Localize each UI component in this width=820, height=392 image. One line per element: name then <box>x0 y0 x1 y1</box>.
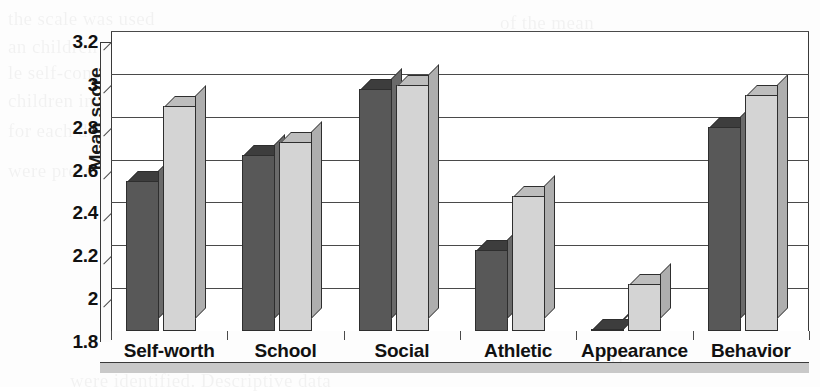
x-axis-tick-labels: Self-worthSchoolSocialAthleticAppearance… <box>100 340 820 370</box>
bar-side-face <box>544 175 555 319</box>
bar-series-1-behavior <box>708 127 741 331</box>
bar-series-1-athletic <box>475 250 508 331</box>
bar-group <box>576 31 692 331</box>
x-axis-tick-mark <box>693 331 694 340</box>
x-axis-tick-mark <box>111 331 112 340</box>
bar-group <box>227 31 343 331</box>
bar-series-1-social <box>359 89 392 331</box>
bar-group <box>460 31 576 331</box>
bar-series-2-athletic <box>512 196 545 331</box>
bar-series-2-behavior <box>745 95 778 331</box>
bar-series-2-appearance <box>628 284 661 331</box>
x-axis-tick-mark <box>809 331 810 340</box>
y-axis-tick-label: 2.2 <box>52 245 98 267</box>
bar-group <box>111 31 227 331</box>
y-axis-tick-label: 2 <box>52 288 98 310</box>
plot-area <box>111 31 809 331</box>
y-axis-tick-label: 2.8 <box>52 117 98 139</box>
x-axis-tick-label-behavior: Behavior <box>671 340 820 362</box>
x-axis-tick-mark <box>460 331 461 340</box>
bar-side-face <box>660 263 671 319</box>
bar-series-2-school <box>279 142 312 331</box>
y-axis-tick-label: 2.4 <box>52 202 98 224</box>
bar-series-2-social <box>396 85 429 331</box>
y-axis-tick-labels: 1.822.22.42.62.833.2 <box>36 0 98 387</box>
bar-side-face <box>777 74 788 319</box>
bar-group <box>693 31 809 331</box>
bar-series-1-self-worth <box>126 181 159 331</box>
x-axis-tick-mark <box>227 331 228 340</box>
bar-series-1-school <box>242 155 275 331</box>
bar-side-face <box>428 64 439 319</box>
bar-side-face <box>195 85 206 319</box>
bar-side-face <box>311 121 322 319</box>
y-axis-tick-label: 3 <box>52 74 98 96</box>
x-axis-tick-mark <box>344 331 345 340</box>
x-axis-tick-mark <box>576 331 577 340</box>
y-axis-tick-label: 2.6 <box>52 160 98 182</box>
bar-group <box>344 31 460 331</box>
bar-series-2-self-worth <box>163 106 196 331</box>
y-axis-tick-label: 3.2 <box>52 31 98 53</box>
bar-series-1-appearance <box>591 329 624 331</box>
